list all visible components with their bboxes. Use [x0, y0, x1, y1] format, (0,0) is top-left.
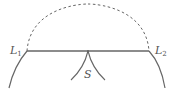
diagram-figure: L1 L2 S [0, 0, 171, 111]
dashed-arc [27, 4, 149, 51]
label-l1: L1 [10, 45, 22, 58]
label-l2: L2 [155, 45, 167, 58]
label-s: S [84, 69, 92, 80]
diagram-canvas [0, 0, 171, 111]
cusp-point [87, 50, 89, 52]
